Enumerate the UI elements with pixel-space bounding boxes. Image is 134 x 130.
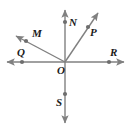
point-label-R: R: [110, 47, 117, 58]
point-label-P: P: [90, 27, 97, 38]
point-dot-S: [63, 92, 67, 96]
point-dot-R: [107, 60, 111, 64]
point-dot-N: [63, 20, 67, 24]
point-label-Q: Q: [17, 47, 25, 58]
origin-label-O: O: [57, 65, 65, 76]
ray-lines-svg: [0, 0, 134, 130]
line-group: [7, 10, 124, 123]
ray-diagram: M N P Q R S O: [0, 0, 134, 130]
point-dot-Q: [20, 60, 24, 64]
point-label-S: S: [56, 97, 62, 108]
point-dot-M: [24, 39, 28, 43]
point-label-M: M: [32, 28, 42, 39]
point-label-N: N: [69, 17, 77, 28]
